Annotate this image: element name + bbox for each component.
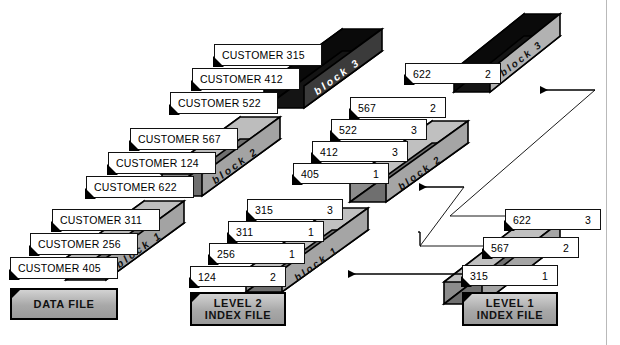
file-tab-icon — [10, 288, 22, 300]
record-tab-icon — [129, 140, 140, 151]
data-file-record-customer-412: CUSTOMER 412 — [192, 68, 300, 90]
record-tab-icon — [311, 152, 322, 163]
record-tab-icon — [461, 276, 472, 287]
record-pointer: 1 — [373, 168, 388, 180]
level-2-record-622: 622 2 — [405, 63, 501, 84]
record-tab-icon — [169, 104, 180, 115]
record-tab-icon — [191, 80, 202, 91]
record-pointer: 1 — [289, 248, 304, 260]
record-tab-icon — [227, 232, 238, 243]
data-file-caption: DATA FILE — [10, 288, 118, 320]
record-tab-icon — [29, 245, 40, 256]
level-1-record-315: 315 1 — [462, 265, 558, 286]
level-2-caption-text: LEVEL 2 INDEX FILE — [205, 297, 272, 321]
record-pointer: 3 — [392, 146, 407, 158]
level-2-record-124: 124 2 — [190, 266, 286, 287]
record-tab-icon — [482, 248, 493, 259]
record-label: CUSTOMER 124 — [109, 157, 199, 169]
diagram-canvas: block 3 block 2 block 1 CUSTO — [0, 0, 620, 345]
record-tab-icon — [85, 188, 96, 199]
data-file-record-customer-567: CUSTOMER 567 — [130, 128, 238, 150]
data-file-record-customer-622: CUSTOMER 622 — [86, 176, 194, 198]
record-tab-icon — [292, 174, 303, 185]
record-tab-icon — [246, 210, 257, 221]
level-1-index-file-caption: LEVEL 1 INDEX FILE — [462, 292, 558, 326]
level-1-record-622: 622 3 — [505, 209, 601, 230]
record-tab-icon — [107, 164, 118, 175]
level-2-record-256: 256 1 — [209, 243, 305, 264]
data-file-record-customer-256: CUSTOMER 256 — [30, 233, 138, 255]
level-2-record-405: 405 1 — [293, 163, 389, 184]
record-tab-icon — [504, 220, 515, 231]
record-pointer: 2 — [563, 242, 578, 254]
record-label: CUSTOMER 256 — [31, 238, 121, 250]
record-label: CUSTOMER 311 — [53, 214, 142, 226]
record-label: CUSTOMER 567 — [131, 133, 221, 145]
level-1-record-567: 567 2 — [483, 237, 579, 258]
caption-line-2: INDEX FILE — [477, 309, 544, 321]
caption-line-1: LEVEL 2 — [214, 297, 263, 309]
record-pointer: 3 — [327, 204, 342, 216]
record-tab-icon — [9, 269, 20, 280]
record-label: CUSTOMER 412 — [193, 73, 283, 85]
record-label: CUSTOMER 522 — [171, 97, 261, 109]
record-pointer: 2 — [485, 68, 500, 80]
record-pointer: 1 — [542, 270, 557, 282]
record-label: CUSTOMER 622 — [87, 181, 177, 193]
data-file-caption-text: DATA FILE — [34, 298, 95, 310]
record-tab-icon — [330, 130, 341, 141]
file-tab-icon — [462, 292, 474, 304]
level-2-record-567: 567 2 — [350, 97, 446, 118]
data-file-record-customer-522: CUSTOMER 522 — [170, 92, 278, 114]
record-tab-icon — [189, 277, 200, 288]
file-tab-icon — [190, 292, 202, 304]
record-pointer: 2 — [270, 271, 285, 283]
record-pointer: 3 — [411, 124, 426, 136]
record-label: CUSTOMER 405 — [11, 262, 101, 274]
record-tab-icon — [349, 108, 360, 119]
level-1-caption-text: LEVEL 1 INDEX FILE — [477, 297, 544, 321]
level-2-record-522: 522 3 — [331, 119, 427, 140]
caption-line-2: INDEX FILE — [205, 309, 272, 321]
record-label: CUSTOMER 315 — [215, 49, 305, 61]
level-2-record-315: 315 3 — [247, 199, 343, 220]
data-file-record-customer-405: CUSTOMER 405 — [10, 257, 118, 279]
data-file-record-customer-311: CUSTOMER 311 — [52, 209, 160, 231]
record-tab-icon — [51, 221, 62, 232]
level-2-index-file-caption: LEVEL 2 INDEX FILE — [190, 292, 286, 326]
record-pointer: 1 — [308, 226, 323, 238]
record-tab-icon — [213, 56, 224, 67]
record-pointer: 3 — [585, 214, 600, 226]
page-edge-rule — [606, 0, 607, 345]
record-tab-icon — [208, 254, 219, 265]
record-tab-icon — [404, 74, 415, 85]
data-file-record-customer-315: CUSTOMER 315 — [214, 44, 322, 66]
data-file-record-customer-124: CUSTOMER 124 — [108, 152, 216, 174]
record-pointer: 2 — [430, 102, 445, 114]
level-2-record-412: 412 3 — [312, 141, 408, 162]
level-2-record-311: 311 1 — [228, 221, 324, 242]
caption-line-1: LEVEL 1 — [486, 297, 535, 309]
